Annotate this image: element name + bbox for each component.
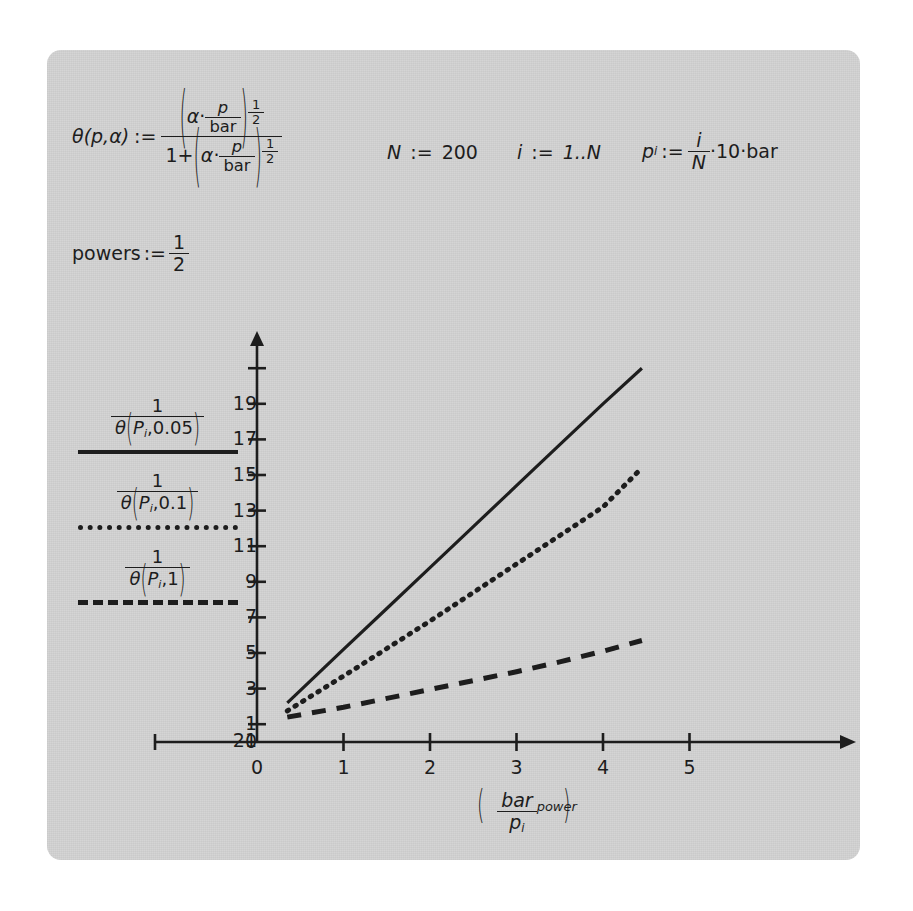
y-tick-label: 21: [207, 729, 257, 751]
y-tick-label: 13: [207, 499, 257, 521]
xlabel-fraction: bar pi: [497, 790, 537, 835]
x-axis-arrow-icon: [840, 735, 856, 749]
xlabel-den-sym: p: [509, 811, 521, 833]
xlabel-paren-open-icon: (: [477, 792, 484, 814]
y-tick-label: 3: [207, 677, 257, 699]
y-axis-arrow-icon: [250, 331, 264, 346]
y-tick-label: 7: [207, 605, 257, 627]
axes-group: [155, 331, 856, 751]
xlabel-exponent: power: [537, 799, 577, 814]
x-tick-label: 2: [415, 756, 445, 778]
worksheet-panel: θ(p,α) := (α·pbar)12 1+(α·pbar)12 powers…: [47, 50, 860, 860]
xlabel-paren-close-icon: ): [563, 792, 570, 814]
x-tick-label: 3: [502, 756, 532, 778]
xlabel-den-sub: i: [521, 821, 524, 835]
y-tick-label: 9: [207, 570, 257, 592]
y-tick-label: 15: [207, 463, 257, 485]
y-tick-label: 5: [207, 641, 257, 663]
x-axis-label: bar pi power: [437, 790, 637, 835]
x-tick-label: 5: [675, 756, 705, 778]
y-tick-label: 17: [207, 427, 257, 449]
series-group: [287, 368, 642, 717]
plot-canvas: [47, 50, 860, 860]
series-line-1: [287, 468, 642, 711]
x-tick-label: 4: [588, 756, 618, 778]
xlabel-num: bar: [497, 790, 537, 811]
y-tick-label: 19: [207, 392, 257, 414]
xlabel-den: pi: [497, 811, 537, 835]
x-tick-label: 0: [242, 756, 272, 778]
y-tick-label: 11: [207, 534, 257, 556]
x-tick-label: 1: [329, 756, 359, 778]
